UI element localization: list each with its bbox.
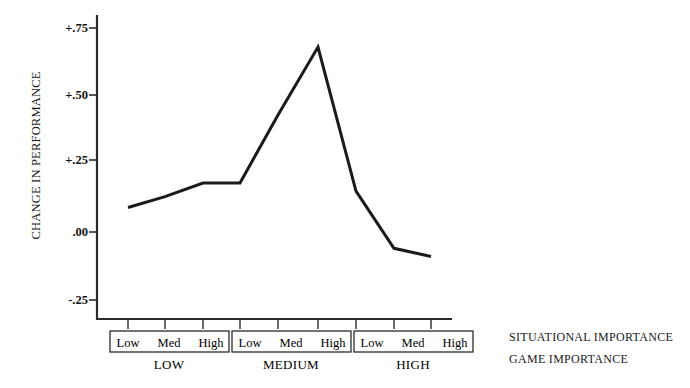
x-cell-label-low-med: Med: [158, 336, 182, 350]
plot-axes: [96, 15, 452, 319]
x-axis-ticks: [128, 319, 431, 329]
x-group-names: LOW MEDIUM HIGH: [154, 357, 430, 372]
x-cell-label-medium-med: Med: [280, 336, 304, 350]
chart-figure: CHANGE IN PERFORMANCE +.75 +.50 +.25 .00…: [0, 0, 690, 388]
x-group-name-high: HIGH: [396, 357, 430, 372]
y-axis-ticks: [89, 28, 97, 300]
x-cell-label-high-low: Low: [361, 336, 384, 350]
x-axis-caption-game-importance: GAME IMPORTANCE: [509, 352, 628, 367]
x-cell-label-medium-low: Low: [239, 336, 262, 350]
x-cell-label-medium-high: High: [321, 336, 347, 350]
x-cell-labels: Low Med High Low Med High Low Med High: [117, 336, 469, 350]
x-group-name-medium: MEDIUM: [263, 357, 319, 372]
performance-line-series: [128, 47, 431, 257]
x-cell-label-low-low: Low: [117, 336, 140, 350]
x-cell-label-high-high: High: [443, 336, 469, 350]
x-cell-label-low-high: High: [199, 336, 225, 350]
x-axis-caption-situational-importance: SITUATIONAL IMPORTANCE: [509, 330, 673, 345]
x-cell-label-high-med: Med: [402, 336, 426, 350]
x-group-name-low: LOW: [154, 357, 185, 372]
